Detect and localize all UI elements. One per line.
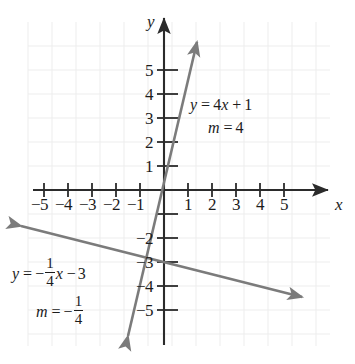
equals-sign: =	[49, 304, 64, 320]
equals-sign: =	[20, 266, 35, 282]
slope-symbol: m	[36, 304, 49, 320]
variable-x: x	[56, 266, 64, 282]
y-tick-label: −3	[126, 254, 153, 271]
x-tick-label: 5	[280, 196, 288, 213]
constant-term: 1	[244, 97, 252, 113]
x-axis-label: x	[335, 196, 343, 213]
equation-lhs: y	[190, 97, 198, 113]
fraction-denominator: 4	[74, 311, 84, 327]
minus-sign: −	[64, 266, 78, 282]
y-tick-label: −5	[126, 302, 153, 319]
y-tick-label: 5	[133, 62, 153, 79]
equation-lhs: y	[12, 266, 20, 282]
variable-x: x	[221, 97, 229, 113]
plus-sign: +	[229, 97, 244, 113]
x-tick-label: −2	[103, 196, 120, 213]
x-tick-label: 2	[208, 196, 216, 213]
fraction-denominator: 4	[45, 273, 55, 289]
fraction-numerator: 1	[45, 256, 55, 272]
fraction-one-fourth: 1 4	[74, 294, 84, 327]
x-tick-label: −5	[31, 196, 48, 213]
slope-value: 4	[236, 120, 244, 136]
slope-label-line2: m = − 1 4	[36, 295, 84, 328]
fraction-one-fourth: 1 4	[45, 256, 55, 289]
x-tick-label: −3	[79, 196, 96, 213]
x-tick-label: 4	[256, 196, 264, 213]
y-tick-label: 3	[133, 110, 153, 127]
y-tick-label: −4	[126, 278, 153, 295]
y-tick-label: 4	[133, 86, 153, 103]
minus-sign: −	[35, 266, 44, 282]
constant-term: 3	[78, 266, 86, 282]
equals-sign: =	[221, 120, 236, 136]
x-tick-label: −4	[55, 196, 72, 213]
y-axis-label: y	[147, 13, 155, 30]
y-tick-label: −2	[126, 230, 153, 247]
equation-label-line1: y = 4 x + 1	[190, 97, 252, 113]
coefficient: 4	[213, 97, 221, 113]
x-tick-label: 1	[184, 196, 192, 213]
y-tick-label: 1	[133, 158, 153, 175]
slope-label-line1: m = 4	[208, 120, 244, 136]
slope-symbol: m	[208, 120, 221, 136]
x-tick-label: −1	[127, 196, 144, 213]
graph-figure: y x −5 −4 −3 −2 −1 1 2 3 4 5 5 4 3 2 1 −…	[0, 0, 355, 364]
equation-label-line2: y = − 1 4 x − 3	[12, 257, 86, 290]
minus-sign: −	[64, 304, 73, 320]
equals-sign: =	[198, 97, 213, 113]
x-tick-label: 3	[232, 196, 240, 213]
fraction-numerator: 1	[74, 294, 84, 310]
y-tick-label: 2	[133, 134, 153, 151]
